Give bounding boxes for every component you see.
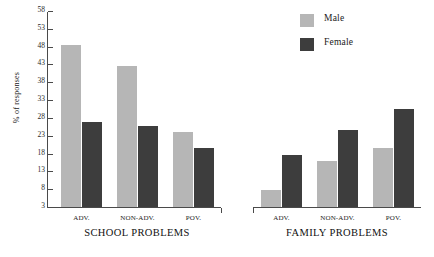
y-axis-label: % of responses: [12, 43, 21, 153]
bar: [317, 161, 337, 207]
x-axis-end-tick: [221, 208, 222, 213]
y-tick: 43: [21, 64, 53, 65]
bar: [117, 66, 137, 207]
y-tick-label: 28: [25, 113, 45, 121]
category-label: NON-ADV.: [108, 214, 168, 222]
y-tick-label: 33: [25, 95, 45, 103]
y-tick-mark: [48, 171, 53, 172]
y-tick-label: 3: [25, 202, 45, 210]
panel-title: FAMILY PROBLEMS: [257, 227, 417, 238]
category-label: POV.: [164, 214, 224, 222]
legend-item-male: Male: [300, 12, 420, 36]
bar-chart: % of responses 3813182328333843485358 AD…: [0, 0, 434, 257]
y-tick-label: 8: [25, 184, 45, 192]
bar: [194, 148, 214, 207]
category-label: NON-ADV.: [308, 214, 368, 222]
y-tick-mark: [48, 100, 53, 101]
category-label: ADV.: [52, 214, 112, 222]
category-label: POV.: [364, 214, 424, 222]
y-tick-label: 53: [25, 24, 45, 32]
y-axis-line: [47, 12, 48, 208]
y-tick-label: 18: [25, 149, 45, 157]
legend-item-female: Female: [300, 36, 420, 60]
y-tick: 23: [21, 136, 53, 137]
y-tick-mark: [48, 189, 53, 190]
legend-swatch-male: [300, 14, 314, 27]
legend-label-female: Female: [324, 37, 353, 47]
y-tick-label: 43: [25, 59, 45, 67]
y-tick: 28: [21, 118, 53, 119]
y-tick-mark: [48, 29, 53, 30]
bar: [82, 122, 102, 207]
y-tick-mark: [48, 82, 53, 83]
y-tick: 38: [21, 82, 53, 83]
category-label: ADV.: [252, 214, 312, 222]
y-tick: 18: [21, 154, 53, 155]
legend: Male Female: [300, 12, 420, 60]
x-axis-line: [253, 207, 421, 208]
bar: [138, 126, 158, 207]
y-tick-label: 23: [25, 131, 45, 139]
bar: [261, 190, 281, 207]
y-tick: 58: [21, 11, 53, 12]
y-tick-label: 58: [25, 6, 45, 14]
y-tick: 3: [21, 207, 53, 208]
x-axis-line: [53, 207, 221, 208]
legend-label-male: Male: [324, 13, 344, 23]
bar: [61, 45, 81, 207]
y-tick: 53: [21, 29, 53, 30]
y-tick-mark: [48, 11, 53, 12]
y-tick: 48: [21, 47, 53, 48]
y-tick-label: 38: [25, 77, 45, 85]
bar: [282, 155, 302, 207]
y-tick-mark: [48, 154, 53, 155]
panel-title: SCHOOL PROBLEMS: [57, 227, 217, 238]
y-tick-mark: [48, 118, 53, 119]
y-tick-label: 13: [25, 166, 45, 174]
bar: [394, 109, 414, 207]
bar: [373, 148, 393, 207]
y-tick-mark: [48, 47, 53, 48]
y-tick: 33: [21, 100, 53, 101]
legend-swatch-female: [300, 38, 314, 51]
y-tick-label: 48: [25, 42, 45, 50]
x-axis-end-tick: [253, 208, 254, 213]
bar: [338, 130, 358, 207]
y-tick-mark: [48, 136, 53, 137]
y-tick: 13: [21, 171, 53, 172]
y-tick: 8: [21, 189, 53, 190]
y-tick-mark: [48, 64, 53, 65]
bar: [173, 132, 193, 207]
